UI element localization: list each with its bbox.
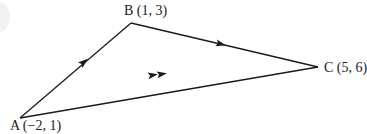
edge-ac — [20, 67, 318, 118]
arrow-bc-icon — [215, 39, 226, 48]
edge-ab — [20, 23, 131, 118]
label-point-b: B (1, 3) — [124, 4, 167, 18]
arrow-ac-1-icon — [147, 71, 158, 80]
arrow-ac-2-icon — [156, 70, 167, 79]
label-point-c: C (5, 6) — [324, 61, 367, 75]
label-point-a: A (−2, 1) — [10, 119, 61, 133]
